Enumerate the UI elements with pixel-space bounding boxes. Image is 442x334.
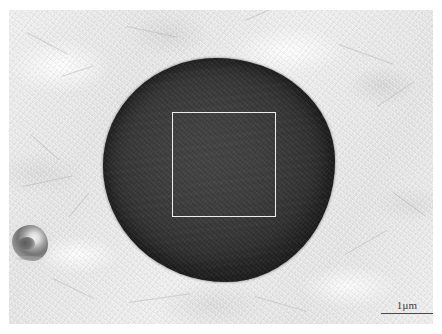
matrix-striation <box>27 32 68 54</box>
scale-bar: 1μm <box>381 300 433 314</box>
matrix-striation <box>255 296 307 312</box>
matrix-striation <box>69 193 89 217</box>
small-irregular-particle <box>12 225 48 261</box>
matrix-striation <box>392 192 425 216</box>
matrix-striation <box>30 134 59 160</box>
scale-bar-rule <box>381 313 433 314</box>
scale-bar-label: 1μm <box>381 300 433 313</box>
matrix-striation <box>377 81 414 106</box>
matrix-striation <box>23 176 72 187</box>
matrix-striation <box>53 278 95 299</box>
micrograph-image-field <box>9 10 433 324</box>
matrix-striation <box>245 10 282 21</box>
micrograph-figure: 1μm <box>0 0 442 334</box>
matrix-striation <box>127 26 178 38</box>
small-particle-core <box>18 237 35 251</box>
matrix-striation <box>129 293 191 303</box>
matrix-striation <box>345 230 387 255</box>
small-particle-tail <box>14 256 44 261</box>
matrix-striation <box>61 65 94 76</box>
region-of-interest-rectangle <box>172 112 276 217</box>
matrix-striation <box>339 44 394 65</box>
